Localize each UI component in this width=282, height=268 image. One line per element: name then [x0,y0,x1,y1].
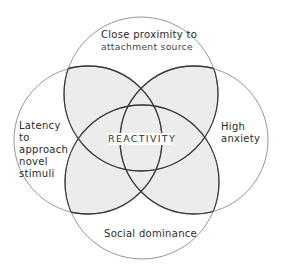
label-left-line1: Latency [19,120,68,132]
label-left-line4: novel [19,156,68,168]
label-top-line2: attachment source [101,41,183,53]
label-bottom-line1: Social dominance [104,228,178,240]
label-latency: Latency to approach novel stimuli [19,120,68,180]
label-left-line5: stimuli [19,168,68,180]
label-right-line2: anxiety [221,133,260,145]
label-close-proximity: Close proximity to attachment source [101,29,183,53]
label-social-dominance: Social dominance [104,228,178,240]
label-left-line2: to [19,132,68,144]
label-reactivity: REACTIVITY [108,133,174,145]
label-left-line3: approach [19,144,68,156]
label-right-line1: High [221,121,260,133]
label-top-line1: Close proximity to [101,29,183,41]
label-high-anxiety: High anxiety [221,121,260,145]
